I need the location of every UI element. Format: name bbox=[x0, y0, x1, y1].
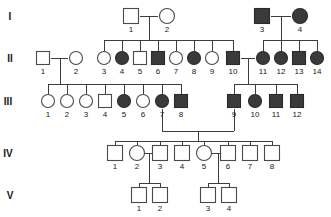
individual-III-5[interactable]: 5 bbox=[118, 95, 131, 120]
individual-III-2[interactable]: 2 bbox=[61, 95, 74, 120]
individual-I-4[interactable]: 4 bbox=[293, 9, 308, 35]
symbol-square-IV-6[interactable] bbox=[221, 146, 236, 161]
symbol-circle-III-1[interactable] bbox=[42, 95, 55, 108]
symbol-circle-IV-2[interactable] bbox=[130, 146, 145, 161]
individual-II-11[interactable]: 11 bbox=[257, 52, 270, 77]
symbol-circle-II-2[interactable] bbox=[70, 52, 83, 65]
generation-label-III: III bbox=[4, 96, 13, 107]
symbol-square-I-1[interactable] bbox=[124, 9, 139, 24]
symbol-square-IV-4[interactable] bbox=[175, 146, 190, 161]
individual-II-7[interactable]: 7 bbox=[170, 52, 183, 77]
individual-V-2[interactable]: 2 bbox=[153, 188, 168, 214]
individual-II-2[interactable]: 2 bbox=[70, 52, 83, 77]
symbol-circle-II-9[interactable] bbox=[206, 52, 219, 65]
symbol-circle-III-7[interactable] bbox=[156, 95, 169, 108]
individual-III-7[interactable]: 7 bbox=[156, 95, 169, 120]
symbol-circle-II-8[interactable] bbox=[188, 52, 201, 65]
symbol-square-II-5[interactable] bbox=[134, 52, 147, 65]
individual-IV-8[interactable]: 8 bbox=[265, 146, 280, 172]
symbol-square-IV-7[interactable] bbox=[243, 146, 258, 161]
individual-I-3[interactable]: 3 bbox=[255, 9, 270, 35]
symbol-circle-II-14[interactable] bbox=[311, 52, 324, 65]
individual-III-12[interactable]: 12 bbox=[291, 95, 304, 120]
symbol-circle-II-7[interactable] bbox=[170, 52, 183, 65]
individual-III-10[interactable]: 10 bbox=[249, 95, 262, 120]
symbol-square-III-11[interactable] bbox=[270, 95, 283, 108]
individual-number-IV-1: 1 bbox=[113, 162, 118, 171]
symbol-square-V-3[interactable] bbox=[201, 188, 216, 203]
symbol-square-IV-3[interactable] bbox=[153, 146, 168, 161]
individual-II-13[interactable]: 13 bbox=[293, 52, 306, 77]
individual-number-II-14: 14 bbox=[313, 67, 322, 76]
individual-number-III-7: 7 bbox=[160, 110, 165, 119]
individual-III-3[interactable]: 3 bbox=[80, 95, 93, 120]
individual-IV-3[interactable]: 3 bbox=[153, 146, 168, 172]
individual-II-12[interactable]: 12 bbox=[275, 52, 288, 77]
symbol-square-IV-1[interactable] bbox=[108, 146, 123, 161]
individual-I-2[interactable]: 2 bbox=[160, 9, 175, 35]
symbol-square-II-1[interactable] bbox=[37, 52, 50, 65]
symbol-square-III-8[interactable] bbox=[175, 95, 188, 108]
individual-II-1[interactable]: 1 bbox=[37, 52, 50, 77]
individual-number-V-2: 2 bbox=[158, 204, 163, 213]
individual-III-11[interactable]: 11 bbox=[270, 95, 283, 120]
symbol-square-II-6[interactable] bbox=[152, 52, 165, 65]
individual-III-6[interactable]: 6 bbox=[137, 95, 150, 120]
symbol-circle-III-3[interactable] bbox=[80, 95, 93, 108]
symbol-square-V-2[interactable] bbox=[153, 188, 168, 203]
individual-V-4[interactable]: 4 bbox=[222, 188, 237, 214]
individual-III-8[interactable]: 8 bbox=[175, 95, 188, 120]
symbol-circle-I-4[interactable] bbox=[293, 9, 308, 24]
individual-II-3[interactable]: 3 bbox=[98, 52, 111, 77]
symbol-circle-III-6[interactable] bbox=[137, 95, 150, 108]
individual-IV-4[interactable]: 4 bbox=[175, 146, 190, 172]
symbol-square-II-13[interactable] bbox=[293, 52, 306, 65]
symbol-square-III-4[interactable] bbox=[99, 95, 112, 108]
symbol-square-V-4[interactable] bbox=[222, 188, 237, 203]
individual-II-14[interactable]: 14 bbox=[311, 52, 324, 77]
symbol-circle-III-5[interactable] bbox=[118, 95, 131, 108]
individual-number-III-11: 11 bbox=[272, 110, 281, 119]
individual-number-II-4: 4 bbox=[120, 67, 125, 76]
symbol-circle-III-10[interactable] bbox=[249, 95, 262, 108]
symbol-circle-II-11[interactable] bbox=[257, 52, 270, 65]
symbol-square-III-9[interactable] bbox=[228, 95, 241, 108]
symbol-circle-II-12[interactable] bbox=[275, 52, 288, 65]
symbol-circle-III-2[interactable] bbox=[61, 95, 74, 108]
individual-number-IV-2: 2 bbox=[135, 162, 140, 171]
symbol-circle-II-4[interactable] bbox=[116, 52, 129, 65]
individual-number-III-5: 5 bbox=[122, 110, 127, 119]
symbol-circle-II-3[interactable] bbox=[98, 52, 111, 65]
individual-number-II-2: 2 bbox=[74, 67, 79, 76]
individual-V-3[interactable]: 3 bbox=[201, 188, 216, 214]
individual-IV-2[interactable]: 2 bbox=[130, 146, 145, 172]
individual-II-4[interactable]: 4 bbox=[116, 52, 129, 77]
symbol-circle-IV-5[interactable] bbox=[197, 146, 212, 161]
individual-II-5[interactable]: 5 bbox=[134, 52, 147, 77]
individual-IV-7[interactable]: 7 bbox=[243, 146, 258, 172]
individual-IV-6[interactable]: 6 bbox=[221, 146, 236, 172]
symbol-layer: 1234123456789101112131412345678910111212… bbox=[37, 9, 324, 214]
individual-number-III-4: 4 bbox=[103, 110, 108, 119]
symbol-square-V-1[interactable] bbox=[132, 188, 147, 203]
individual-II-8[interactable]: 8 bbox=[188, 52, 201, 77]
generation-label-IV: IV bbox=[3, 148, 13, 159]
symbol-square-III-12[interactable] bbox=[291, 95, 304, 108]
individual-II-6[interactable]: 6 bbox=[152, 52, 165, 77]
individual-V-1[interactable]: 1 bbox=[132, 188, 147, 214]
symbol-circle-I-2[interactable] bbox=[160, 9, 175, 24]
pedigree-canvas: 1234123456789101112131412345678910111212… bbox=[0, 0, 331, 217]
individual-IV-1[interactable]: 1 bbox=[108, 146, 123, 172]
individual-II-10[interactable]: 10 bbox=[227, 52, 240, 77]
individual-III-9[interactable]: 9 bbox=[228, 95, 241, 120]
symbol-square-IV-8[interactable] bbox=[265, 146, 280, 161]
individual-IV-5[interactable]: 5 bbox=[197, 146, 212, 172]
individual-III-4[interactable]: 4 bbox=[99, 95, 112, 120]
individual-number-IV-5: 5 bbox=[202, 162, 207, 171]
symbol-square-II-10[interactable] bbox=[227, 52, 240, 65]
individual-II-9[interactable]: 9 bbox=[206, 52, 219, 77]
individual-number-V-4: 4 bbox=[227, 204, 232, 213]
individual-III-1[interactable]: 1 bbox=[42, 95, 55, 120]
symbol-square-I-3[interactable] bbox=[255, 9, 270, 24]
individual-I-1[interactable]: 1 bbox=[124, 9, 139, 35]
